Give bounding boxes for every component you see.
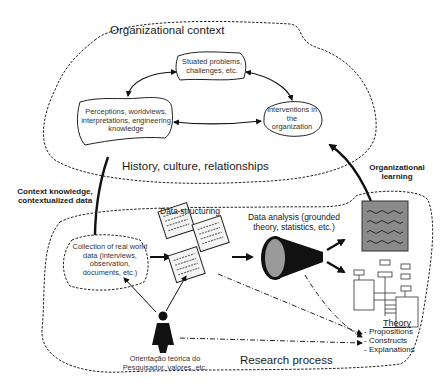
- arrow-problems-interventions: [246, 72, 292, 100]
- arrow-perceptions-interventions: [174, 121, 261, 124]
- theory-item-explanations: - Explanations: [364, 346, 430, 355]
- report-icon: [362, 201, 408, 251]
- organizational-context-title: Organizational context: [110, 24, 250, 37]
- dashdot-structuring-theory: [218, 274, 362, 334]
- interventions-label: Interventions in the organization: [266, 106, 318, 132]
- dashdot-analysis-theory: [305, 275, 362, 337]
- arrow-analysis-report: [327, 240, 344, 250]
- collection-label: Collection of real world data (interview…: [72, 243, 148, 277]
- organizational-learning-label: Organizational learning: [362, 163, 432, 181]
- data-structuring-label: Data structuring: [150, 207, 230, 217]
- analysis-cone-icon: [261, 236, 323, 280]
- researcher-label: Orientação teórica do Pesquisador, valor…: [120, 355, 210, 372]
- data-analysis-label: Data analysis (grounded theory, statisti…: [243, 213, 345, 233]
- arrow-analysis-model: [327, 262, 344, 272]
- dashdot-researcher-theory: [180, 338, 362, 343]
- arrow-problems-perceptions: [128, 72, 176, 96]
- organizational-context-footer: History, culture, relationships: [122, 160, 292, 173]
- perceptions-label: Perceptions, worldviews, interpretations…: [78, 108, 174, 134]
- context-knowledge-label: Context knowledge, contextualized data: [14, 187, 96, 205]
- research-process-title: Research process: [240, 354, 350, 367]
- situated-problems-label: Stuated problems, challenges, etc.: [178, 58, 246, 75]
- theory-block: Theory - Propositions - Constructs - Exp…: [364, 318, 430, 355]
- researcher-person-icon: [152, 312, 174, 354]
- theory-model-icon: [354, 260, 418, 327]
